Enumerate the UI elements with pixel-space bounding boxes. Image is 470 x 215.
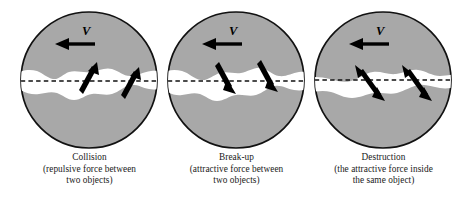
- caption-line-3: the same object): [305, 175, 462, 187]
- panel-destruction: V Destruction (the attractive force insi…: [305, 0, 462, 215]
- caption-break-up: Break-up (attractive force between two o…: [158, 152, 315, 187]
- diagram-destruction: V: [305, 0, 462, 152]
- caption-title: Collision: [11, 152, 168, 164]
- caption-destruction: Destruction (the attractive force inside…: [305, 152, 462, 187]
- diagram-break-up: V: [158, 0, 315, 152]
- panel-break-up: V Break-up (attractive force between two…: [158, 0, 315, 215]
- figure-root: V Collision (repulsive force between two…: [0, 0, 470, 215]
- caption-line-2: (the attractive force inside: [305, 164, 462, 176]
- caption-title: Break-up: [158, 152, 315, 164]
- caption-title: Destruction: [305, 152, 462, 164]
- caption-line-2: (repulsive force between: [11, 164, 168, 176]
- diagram-collision: V: [11, 0, 168, 152]
- caption-collision: Collision (repulsive force between two o…: [11, 152, 168, 187]
- caption-line-3: two objects): [158, 175, 315, 187]
- caption-line-2: (attractive force between: [158, 164, 315, 176]
- panel-collision: V Collision (repulsive force between two…: [11, 0, 168, 215]
- caption-line-3: two objects): [11, 175, 168, 187]
